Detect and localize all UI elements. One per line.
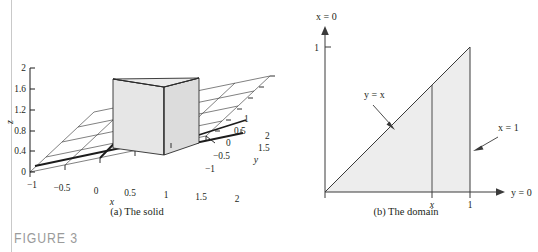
figure-number-label: FIGURE 3 [14, 229, 78, 246]
hypotenuse-annotation-label: y = x [364, 89, 385, 100]
solid-3d-plot: 2 1.6 1.2 0.8 0.4 0 z −1 −0.5 0 [0, 0, 274, 206]
z-tick-4: 0.4 [14, 146, 26, 156]
caption-solid: (a) The solid [0, 206, 274, 217]
vertical-axis-arrowhead [321, 26, 329, 35]
figure-root: 2 1.6 1.2 0.8 0.4 0 z −1 −0.5 0 [0, 0, 538, 252]
x-tick-5: 1.5 [195, 192, 207, 202]
horizontal-axis-arrowhead [496, 188, 505, 196]
x-tick-1: −0.5 [53, 183, 70, 193]
vertical-axis-label: x = 0 [316, 11, 337, 22]
right-boundary-annotation-label: x = 1 [498, 122, 519, 133]
prism-solid [113, 78, 199, 155]
y-tick-5: −0.5 [213, 151, 230, 161]
y-tick-4: 0 [226, 138, 231, 148]
horizontal-axis-label: y = 0 [511, 187, 532, 198]
x-tick-0: −1 [27, 180, 37, 190]
y-axis-label: y [253, 154, 259, 165]
y-tick-one: 1 [314, 43, 319, 53]
x-tick-labels: −1 −0.5 0 0.5 1 1.5 2 [27, 180, 240, 204]
z-axis [30, 68, 35, 172]
y-tick-0: 2 [265, 131, 270, 141]
z-tick-2: 1.2 [14, 105, 26, 115]
y-tick-3: 0.5 [234, 126, 246, 136]
y-tick-6: −1 [205, 164, 215, 174]
z-axis-label: z [4, 120, 15, 125]
z-tick-3: 0.8 [14, 126, 26, 136]
x-tick-3: 0.5 [124, 188, 136, 198]
x-tick-6: 2 [235, 194, 240, 204]
z-tick-5: 0 [21, 167, 26, 177]
caption-domain: (b) The domain [274, 206, 538, 217]
x-tick-4: 1 [164, 190, 169, 200]
z-tick-labels: 2 1.6 1.2 0.8 0.4 0 [14, 63, 26, 177]
x-tick-2: 0 [94, 186, 99, 196]
y-tick-2: 1 [244, 114, 249, 124]
hypotenuse-annotation-arrow [373, 105, 391, 125]
domain-2d-plot: 1 x 1 x = 0 y = 0 y = x x = 1 [274, 0, 538, 206]
y-tick-1: 1.5 [258, 143, 270, 153]
z-tick-1: 1.6 [14, 84, 26, 94]
z-tick-0: 2 [21, 63, 26, 73]
